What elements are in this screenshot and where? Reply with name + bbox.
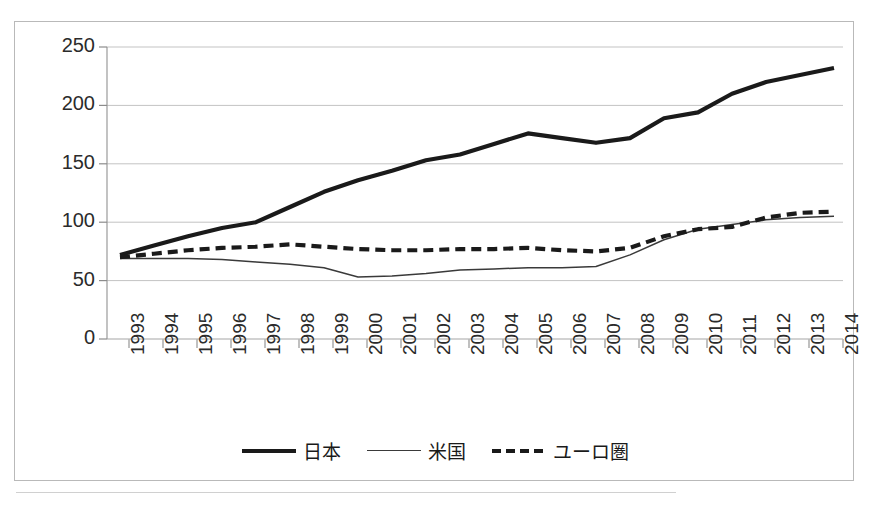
legend-line-swatch-icon	[492, 444, 546, 458]
x-axis-label: 2013	[807, 313, 829, 355]
x-axis-label: 2012	[773, 313, 795, 355]
x-axis-label: 2011	[739, 314, 761, 355]
x-axis-label: 2014	[841, 313, 863, 355]
y-tick-marks-group	[99, 47, 107, 339]
x-axis-label: 2006	[569, 313, 591, 355]
y-axis-label: 100	[33, 209, 95, 232]
x-axis-label: 1998	[297, 313, 319, 355]
legend-label: ユーロ圏	[553, 437, 629, 464]
bottom-divider-rule	[16, 492, 676, 493]
x-axis-label: 2009	[671, 313, 693, 355]
chart-plot-frame: 250200150100500 199319941995199619971998…	[14, 21, 854, 481]
x-axis-label: 2001	[399, 313, 421, 355]
x-axis-label: 1993	[127, 313, 149, 355]
legend-item-0[interactable]: 日本	[242, 437, 341, 464]
x-axis-label: 2007	[603, 313, 625, 355]
x-axis-label: 1994	[161, 313, 183, 355]
x-axis-label: 1999	[331, 313, 353, 355]
x-axis-label: 1996	[229, 313, 251, 355]
x-axis-label: 1995	[195, 313, 217, 355]
legend-line-swatch-icon	[367, 444, 421, 458]
x-axis-label: 2002	[433, 313, 455, 355]
gridlines-group	[107, 47, 843, 339]
x-axis-label: 2008	[637, 313, 659, 355]
y-axis-label: 0	[33, 326, 95, 349]
figure-container: 250200150100500 199319941995199619971998…	[0, 0, 870, 510]
legend-item-1[interactable]: 米国	[367, 437, 466, 464]
chart-legend: 日本米国ユーロ圏	[0, 437, 870, 464]
x-axis-label: 1997	[263, 313, 285, 355]
chart-canvas	[15, 22, 853, 480]
legend-line-swatch-icon	[242, 444, 296, 458]
x-axis-label: 2005	[535, 313, 557, 355]
y-axis-label: 150	[33, 151, 95, 174]
legend-label: 日本	[303, 437, 341, 464]
y-axis-label: 200	[33, 92, 95, 115]
data-series-group	[120, 68, 834, 277]
x-axis-label: 2003	[467, 313, 489, 355]
y-axis-label: 250	[33, 34, 95, 57]
x-axis-label: 2004	[501, 313, 523, 355]
x-axis-label: 2010	[705, 313, 727, 355]
x-axis-label: 2000	[365, 313, 387, 355]
legend-label: 米国	[428, 437, 466, 464]
series-line-2	[120, 212, 834, 258]
y-axis-label: 50	[33, 268, 95, 291]
legend-item-2[interactable]: ユーロ圏	[492, 437, 629, 464]
